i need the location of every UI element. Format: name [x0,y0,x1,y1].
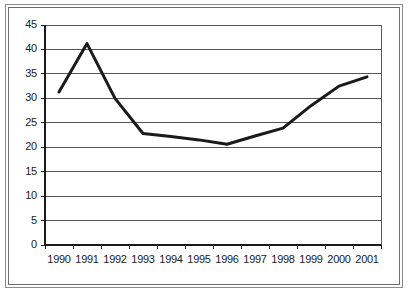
y-tick-label: 5 [11,214,37,226]
x-tick-label: 1998 [269,253,297,265]
data-series-line [59,44,367,145]
x-tick-label: 1994 [157,253,185,265]
x-tick-label: 2001 [353,253,381,265]
gridline-group [45,25,381,221]
y-tick-label: 30 [11,91,37,103]
x-tick-label: 1999 [297,253,325,265]
chart-figure: 051015202530354045 199019911992199319941… [0,0,408,293]
x-tick-label: 1995 [185,253,213,265]
y-tick-label: 45 [11,18,37,30]
y-tick-label: 35 [11,67,37,79]
x-tick-label: 1992 [101,253,129,265]
y-tick-label: 0 [11,238,37,250]
x-tick-label: 1993 [129,253,157,265]
y-tick-label: 15 [11,165,37,177]
y-tick-label: 25 [11,116,37,128]
x-tick-label: 1990 [45,253,73,265]
y-tick-label: 40 [11,42,37,54]
x-tick-label: 1997 [241,253,269,265]
line-chart-plot [0,0,408,293]
x-tick-label: 2000 [325,253,353,265]
x-tick-label: 1996 [213,253,241,265]
x-tick-label: 1991 [73,253,101,265]
y-tick-label: 20 [11,140,37,152]
y-tick-label: 10 [11,189,37,201]
